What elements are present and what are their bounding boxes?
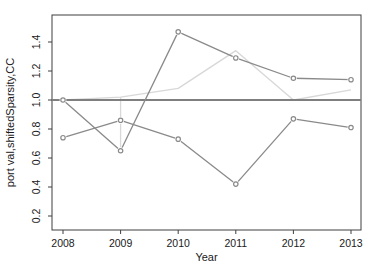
- x-axis-label: Year: [195, 251, 218, 263]
- y-tick-label: 0.6: [30, 151, 42, 166]
- series-line-upper-gray-series: [63, 32, 351, 151]
- series-line-lower-gray-series: [63, 119, 351, 184]
- y-tick-label: 1.0: [30, 93, 42, 108]
- x-tick-label: 2012: [282, 237, 306, 249]
- x-tick-label: 2009: [109, 237, 133, 249]
- y-tick-label: 1.2: [30, 64, 42, 79]
- y-tick-label: 0.2: [30, 209, 42, 224]
- x-tick-label: 2011: [225, 237, 248, 249]
- series-line-light-gray-series: [63, 51, 351, 100]
- chart-figure: 2008200920102011201220130.20.40.60.81.01…: [0, 0, 376, 280]
- y-tick-label: 1.4: [30, 35, 42, 50]
- line-chart-canvas: 2008200920102011201220130.20.40.60.81.01…: [0, 0, 376, 280]
- x-tick-label: 2013: [339, 237, 363, 249]
- y-tick-label: 0.8: [30, 122, 42, 137]
- x-tick-label: 2008: [51, 237, 75, 249]
- y-tick-label: 0.4: [30, 180, 42, 195]
- y-axis-label: port val,shiftedSparsity,CC: [4, 58, 16, 187]
- x-tick-label: 2010: [167, 237, 191, 249]
